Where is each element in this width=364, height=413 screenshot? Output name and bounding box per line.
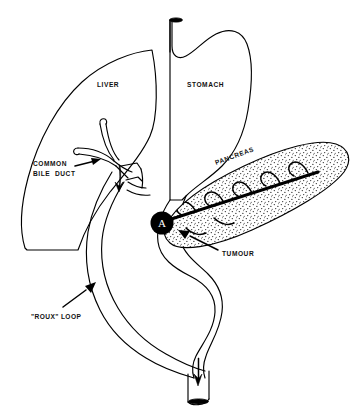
tumour-label: TUMOUR xyxy=(222,250,254,257)
anastomosis-group xyxy=(115,163,150,195)
anastomosis-connector-bottom xyxy=(127,190,150,195)
anatomical-diagram: LIVER STOMACH xyxy=(0,0,364,413)
tumour-marker-letter: A xyxy=(158,217,166,229)
anastomosis-connector-top xyxy=(128,182,146,188)
roux-loop-leader-line xyxy=(63,290,86,307)
common-bile-duct-label-line2: BILE DUCT xyxy=(33,170,76,177)
annotation-roux-loop: "ROUX" LOOP xyxy=(31,282,96,320)
anastomosis-right-wall xyxy=(141,169,143,188)
jejunum-cut-cap xyxy=(189,399,209,404)
common-bile-duct-label-line1: COMMON xyxy=(33,160,67,167)
liver-label: LIVER xyxy=(97,81,119,88)
liver-group: LIVER xyxy=(22,50,157,250)
oesophagus-cut-cap xyxy=(170,18,183,22)
liver-outline xyxy=(22,50,157,250)
tumour-marker-group: A xyxy=(151,212,174,235)
stomach-label: STOMACH xyxy=(187,81,224,88)
roux-loop-label: "ROUX" LOOP xyxy=(31,313,81,320)
bowel-flow-arrow xyxy=(194,358,202,386)
diagram-canvas: LIVER STOMACH xyxy=(0,0,364,413)
